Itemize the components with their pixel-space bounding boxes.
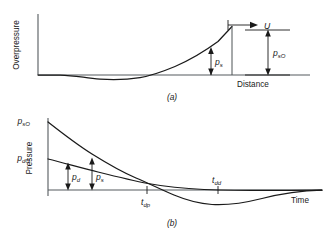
shock-velocity-label: U xyxy=(264,21,271,31)
panel-a-y-axis-label: Overpressure xyxy=(12,20,21,70)
panel-b: psO pdO pd ps xyxy=(16,116,322,228)
panel-b-psO-label: psO xyxy=(17,116,31,127)
panel-a-overpressure-curve xyxy=(38,27,232,80)
panel-a-ps-label: ps xyxy=(214,57,223,68)
panel-b-y-axis-label: Pressure xyxy=(25,141,34,174)
panel-b-x-axis-label: Time xyxy=(291,196,309,205)
panel-b-pd-label: pd xyxy=(71,172,81,183)
panel-a-caption: (a) xyxy=(167,92,177,102)
panel-b-dynamic-pressure-curve xyxy=(48,159,322,190)
panel-a-x-axis-label: Distance xyxy=(237,80,269,89)
panel-b-pd-dimension xyxy=(65,163,71,191)
panel-a-psO-label: psO xyxy=(272,48,286,59)
panel-a: U ps psO Overpressu xyxy=(12,14,310,102)
panel-b-ps-dimension xyxy=(89,158,95,191)
panel-b-tdd-label: tdd xyxy=(212,175,222,186)
figure-svg: U ps psO Overpressu xyxy=(0,0,334,239)
panel-b-caption: (b) xyxy=(167,218,177,228)
panel-b-tdp-label: tdp xyxy=(141,197,151,208)
panel-a-ps-dimension xyxy=(208,47,214,76)
panel-b-static-overpressure-curve xyxy=(48,122,322,205)
figure-container: U ps psO Overpressu xyxy=(0,0,334,239)
